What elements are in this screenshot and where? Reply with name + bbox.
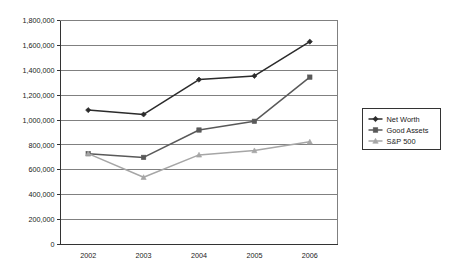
legend-item-label[interactable]: Net Worth	[387, 115, 420, 124]
chart-container: 0200,000400,000600,000800,0001,000,0001,…	[0, 0, 449, 263]
y-axis-label: 1,000,000	[23, 116, 55, 125]
x-axis-tick-labels: 20022003200420052006	[80, 251, 318, 260]
line-chart: 0200,000400,000600,000800,0001,000,0001,…	[0, 0, 449, 263]
data-point	[308, 75, 312, 79]
y-axis-label: 1,800,000	[23, 16, 55, 25]
y-axis-label: 200,000	[29, 215, 55, 224]
x-axis-label: 2003	[136, 251, 152, 260]
data-point	[197, 128, 201, 132]
data-point	[252, 119, 256, 123]
x-axis-label: 2002	[80, 251, 96, 260]
series-line	[88, 142, 310, 177]
x-axis-label: 2004	[191, 251, 207, 260]
data-point	[86, 108, 91, 113]
y-axis-label: 1,400,000	[23, 66, 55, 75]
series-net-worth	[86, 39, 313, 117]
legend-item-label[interactable]: Good Assets	[387, 126, 429, 135]
chart-legend[interactable]: Net WorthGood AssetsS&P 500	[363, 109, 441, 150]
legend-item-label[interactable]: S&P 500	[387, 137, 416, 146]
x-axis-label: 2006	[302, 251, 318, 260]
y-axis-label: 400,000	[29, 190, 55, 199]
data-point	[141, 155, 145, 159]
data-series	[86, 39, 313, 179]
y-axis-label: 1,600,000	[23, 41, 55, 50]
legend-marker-icon	[373, 128, 378, 133]
y-axis-label: 600,000	[29, 165, 55, 174]
y-axis-label: 0	[51, 240, 55, 249]
x-axis-label: 2005	[246, 251, 262, 260]
y-axis-label: 1,200,000	[23, 91, 55, 100]
y-axis-tick-labels: 0200,000400,000600,000800,0001,000,0001,…	[23, 16, 55, 249]
y-axis-label: 800,000	[29, 141, 55, 150]
